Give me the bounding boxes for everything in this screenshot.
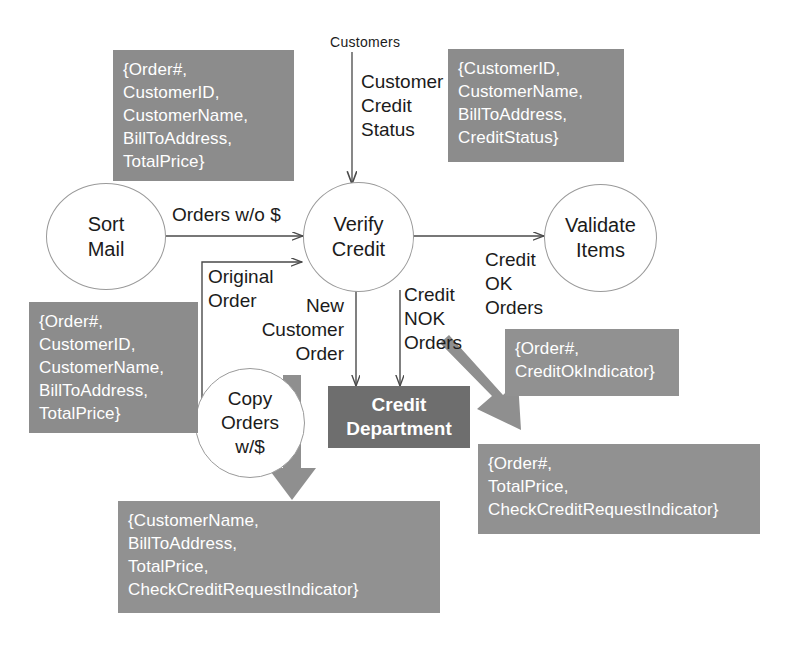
- data-box-original-order-attrs: {Order#, CustomerID, CustomerName, BillT…: [29, 302, 198, 433]
- data-box-customer-credit-status-attrs: {CustomerID, CustomerName, BillToAddress…: [448, 49, 624, 162]
- data-box-credit-ok-orders-attrs: {Order#, CreditOkIndicator}: [505, 329, 679, 396]
- data-box-credit-nok-orders-attrs: {Order#, TotalPrice, CheckCreditRequestI…: [478, 444, 760, 534]
- external-entity-customers: Customers: [330, 33, 400, 51]
- data-box-sort-mail-input-attrs: {Order#, CustomerID, CustomerName, BillT…: [113, 50, 294, 181]
- process-verify-credit[interactable]: Verify Credit: [303, 182, 414, 292]
- process-validate-items[interactable]: Validate Items: [544, 184, 657, 292]
- data-box-new-customer-order-attrs: {CustomerName, BillToAddress, TotalPrice…: [118, 501, 440, 613]
- flow-label-new-customer-order: New Customer Order: [252, 294, 344, 366]
- process-sort-mail[interactable]: Sort Mail: [46, 183, 166, 290]
- dfd-diagram-canvas: Customers {Order#, CustomerID, CustomerN…: [0, 0, 794, 649]
- process-copy-orders-with-dollar[interactable]: Copy Orders w/$: [195, 368, 305, 478]
- process-box-credit-department[interactable]: Credit Department: [328, 386, 470, 448]
- flow-label-customer-credit-status: Customer Credit Status: [361, 70, 443, 142]
- flow-label-orders-wo-dollar: Orders w/o $: [172, 203, 281, 227]
- flow-label-credit-ok-orders: Credit OK Orders: [485, 248, 543, 320]
- flow-label-credit-nok-orders: Credit NOK Orders: [404, 283, 462, 355]
